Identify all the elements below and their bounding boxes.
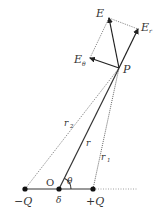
- construction-line-top: [109, 18, 138, 29]
- negative-charge-label: −Q: [14, 195, 32, 208]
- positive-charge-label: +Q: [86, 195, 104, 208]
- r1-subscript: 1: [107, 157, 111, 163]
- r1-label: r: [101, 152, 106, 162]
- r-label: r: [86, 138, 91, 148]
- construction-line-left: [90, 18, 109, 58]
- r1-line: [93, 68, 119, 189]
- r2-label: r: [64, 118, 69, 128]
- er-label: E: [140, 21, 149, 34]
- point-p-label: P: [122, 63, 131, 76]
- etheta-vector-arrow: [90, 58, 119, 68]
- theta-label: θ: [67, 176, 73, 186]
- delta-label: δ: [56, 195, 61, 205]
- er-subscript: r: [149, 27, 153, 34]
- origin-dot: [56, 186, 61, 191]
- e-vector-arrow: [109, 18, 119, 68]
- etheta-subscript: θ: [82, 60, 86, 67]
- r-line: [59, 68, 119, 189]
- etheta-label: E: [73, 53, 82, 66]
- origin-label: O: [46, 177, 54, 188]
- e-label: E: [95, 7, 104, 20]
- dipole-diagram: E E r E θ P r 2 r r 1 O θ −Q δ +Q: [0, 0, 157, 220]
- positive-charge-dot: [90, 186, 95, 191]
- negative-charge-dot: [22, 186, 27, 191]
- r2-subscript: 2: [69, 123, 74, 129]
